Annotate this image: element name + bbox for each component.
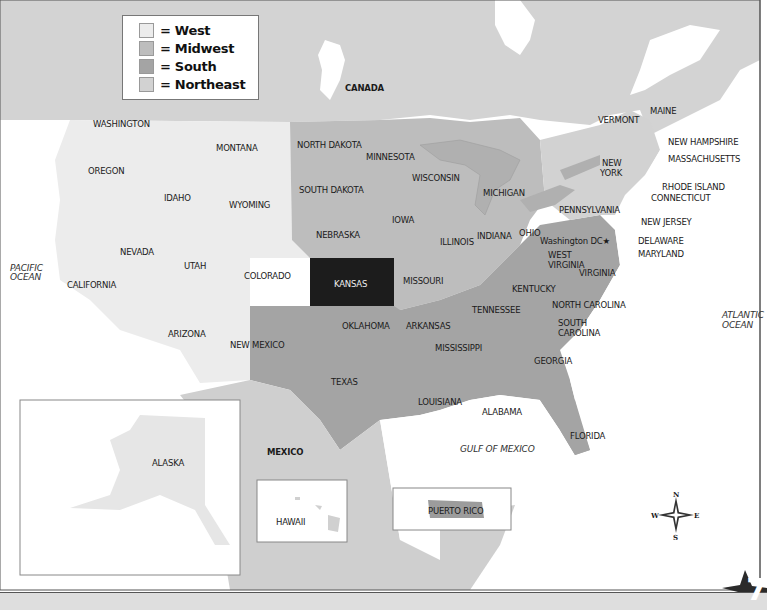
label-connecticut: CONNECTICUT [651,193,711,203]
label-idaho: IDAHO [164,193,191,203]
label-tennessee: TENNESSEE [472,305,520,315]
label-wisconsin: WISCONSIN [412,173,460,183]
label-louisiana: LOUISIANA [418,397,462,407]
label-missouri: MISSOURI [403,276,443,286]
legend-label-midwest: = Midwest [160,41,234,56]
label-new-hampshire: NEW HAMPSHIRE [668,137,738,147]
label-north-dakota: NORTH DAKOTA [297,140,362,150]
compass-s: S [673,533,678,543]
label-colorado: COLORADO [244,271,291,281]
label-north-carolina: NORTH CAROLINA [552,300,626,310]
label-ohio: OHIO [519,228,540,238]
label-nevada: NEVADA [120,247,154,257]
label-pacific-ocean: PACIFIC OCEAN [10,264,50,282]
label-new-york-1: NEW [602,158,622,168]
page-footer [0,592,767,610]
label-nebraska: NEBRASKA [316,230,360,240]
legend-swatch-south [139,59,154,74]
legend-item-midwest: = Midwest [139,39,234,57]
hawaii-inset [257,480,347,542]
label-pennsylvania: PENNSYLVANIA [559,205,620,215]
compass-n: N [673,490,679,500]
label-mississippi: MISSISSIPPI [435,343,482,353]
label-vermont: VERMONT [598,115,639,125]
label-oklahoma: OKLAHOMA [342,321,390,331]
page-number: 7 [746,572,767,607]
label-iowa: IOWA [392,215,414,225]
legend-label-west: = West [160,23,210,38]
legend-label-south: = South [160,59,216,74]
legend-label-northeast: = Northeast [160,77,245,92]
label-new-mexico: NEW MEXICO [230,340,285,350]
label-arkansas: ARKANSAS [406,321,450,331]
label-montana: MONTANA [216,143,258,153]
legend-swatch-northeast [139,77,154,92]
label-delaware: DELAWARE [638,236,684,246]
label-california: CALIFORNIA [67,280,116,290]
label-washington: WASHINGTON [93,119,150,129]
compass-w: W [651,511,659,521]
label-west-virginia-2: VIRGINIA [548,260,584,270]
label-massachusetts: MASSACHUSETTS [668,154,740,164]
label-west-virginia-1: WEST [548,250,572,260]
label-utah: UTAH [184,261,206,271]
label-washington-dc: Washington DC★ [540,236,610,246]
legend-swatch-west [139,23,154,38]
legend-item-northeast: = Northeast [139,75,245,93]
compass-e: E [694,511,699,521]
label-new-jersey: NEW JERSEY [641,217,692,227]
label-wyoming: WYOMING [229,200,270,210]
label-south-carolina-2: CAROLINA [558,328,600,338]
label-florida: FLORIDA [570,431,605,441]
label-new-york-2: YORK [600,168,622,178]
legend-item-west: = West [139,21,210,39]
label-arizona: ARIZONA [168,329,206,339]
label-alabama: ALABAMA [482,407,522,417]
label-minnesota: MINNESOTA [366,152,415,162]
label-mexico: MEXICO [267,447,303,457]
label-georgia: GEORGIA [534,356,572,366]
legend-swatch-midwest [139,41,154,56]
label-virginia: VIRGINIA [579,268,615,278]
label-alaska: ALASKA [152,458,184,468]
label-puerto-rico: PUERTO RICO [428,506,483,516]
label-oregon: OREGON [88,166,124,176]
region-legend: = West = Midwest = South = Northeast [122,15,259,100]
label-kansas: KANSAS [334,279,367,289]
label-kentucky: KENTUCKY [512,284,556,294]
label-indiana: INDIANA [477,231,512,241]
label-hawaii: HAWAII [276,517,305,527]
label-illinois: ILLINOIS [440,237,474,247]
label-gulf-of-mexico: GULF OF MEXICO [460,444,535,454]
label-maryland: MARYLAND [638,249,684,259]
label-michigan: MICHIGAN [483,188,525,198]
label-maine: MAINE [650,106,676,116]
label-south-dakota: SOUTH DAKOTA [299,185,364,195]
label-canada: CANADA [345,83,384,93]
label-texas: TEXAS [331,377,358,387]
legend-item-south: = South [139,57,216,75]
label-atlantic-ocean: ATLANTIC OCEAN [722,310,767,330]
label-south-carolina-1: SOUTH [558,318,587,328]
label-rhode-island: RHODE ISLAND [662,182,725,192]
